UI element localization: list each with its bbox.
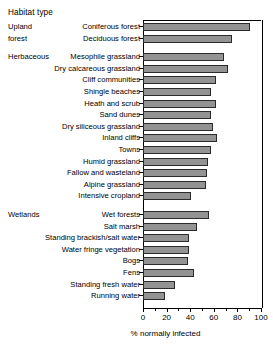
x-axis-tick-label: 40 [186, 313, 195, 322]
bar [143, 65, 228, 73]
bar [143, 246, 189, 254]
bar-row: Salt marsh [0, 223, 273, 232]
bar-category-label: Coniferous forest [82, 22, 140, 31]
x-axis-tick [237, 308, 238, 312]
x-axis-tick-label: 20 [162, 313, 171, 322]
bar-category-label: Alpine grassland [84, 180, 140, 189]
x-axis-tick [202, 308, 203, 311]
x-axis-tick [214, 308, 215, 312]
bar-row: Fens [0, 269, 273, 278]
bar-category-label: Mesophile grassland [70, 52, 140, 61]
bar-row: Bogs [0, 257, 273, 266]
bar-category-label: Towns [118, 145, 140, 154]
bar [143, 146, 211, 154]
bar-category-label: Dry calcareous grassland [54, 64, 140, 73]
bar-row: Humid grassland [0, 158, 273, 167]
bar [143, 234, 189, 242]
bar-category-label: Dry siliceous grassland [62, 122, 140, 131]
bar-row: Coniferous forest [0, 23, 273, 32]
bar-category-label: Water fringe vegetation [62, 245, 140, 254]
bar-row: Dry calcareous grassland [0, 65, 273, 74]
bar-category-label: Shingle beaches [84, 87, 140, 96]
group-label: Herbaceous [8, 52, 49, 61]
bar [143, 181, 206, 189]
x-axis-tick [178, 308, 179, 311]
bar-category-label: Inland cliffs [102, 133, 140, 142]
bar-row: Standing fresh water [0, 281, 273, 290]
bar [143, 211, 209, 219]
bar-category-label: Humid grassland [83, 157, 140, 166]
x-axis-title: % normally infected [0, 329, 273, 338]
bar-row: Heath and scrub [0, 100, 273, 109]
bar-row: Towns [0, 146, 273, 155]
habitat-infection-bar-chart: Habitat type Coniferous forestDeciduous … [0, 0, 273, 345]
bar [143, 169, 207, 177]
bar [143, 134, 217, 142]
bar-row: Deciduous forest [0, 35, 273, 44]
bar-category-label: Salt marsh [104, 222, 140, 231]
bar-category-label: Fens [123, 268, 140, 277]
x-axis-tick [155, 308, 156, 311]
bar-category-label: Wet forests [102, 210, 140, 219]
bar-category-label: Intensive cropland [78, 191, 140, 200]
bar-category-label: Sand dunes [99, 110, 140, 119]
bar-row: Standing brackish/salt water [0, 234, 273, 243]
group-label: Wetlands [8, 210, 40, 219]
x-axis-tick-label: 80 [233, 313, 242, 322]
x-axis-title-text: % normally infected [131, 329, 201, 338]
bar [143, 88, 211, 96]
bar-row: Inland cliffs [0, 134, 273, 143]
bar-row: Cliff communities [0, 76, 273, 85]
bar-category-label: Bogs [123, 256, 140, 265]
bar-row: Sand dunes [0, 111, 273, 120]
bar-row: Water fringe vegetation [0, 246, 273, 255]
bar-category-label: Standing brackish/salt water [45, 233, 140, 242]
x-axis-tick [226, 308, 227, 311]
bar [143, 281, 175, 289]
bar [143, 292, 165, 300]
x-axis-tick-label: 60 [209, 313, 218, 322]
bar-row: Alpine grassland [0, 181, 273, 190]
bar-row: Shingle beaches [0, 88, 273, 97]
bar [143, 269, 194, 277]
bar-category-label: Fallow and wasteland [67, 168, 140, 177]
bar-row: Intensive cropland [0, 192, 273, 201]
bar-row: Fallow and wasteland [0, 169, 273, 178]
bar-row: Running water [0, 292, 273, 301]
x-axis-tick [261, 308, 262, 312]
x-axis-tick-label: 0 [141, 313, 145, 322]
bar-row: Wet forests [0, 211, 273, 220]
group-label: forest [8, 34, 27, 43]
bar-category-label: Cliff communities [82, 75, 140, 84]
bar [143, 23, 250, 31]
bar [143, 192, 191, 200]
bar [143, 111, 211, 119]
bar-category-label: Standing fresh water [70, 280, 140, 289]
bar-category-label: Heath and scrub [84, 99, 140, 108]
x-axis-tick [190, 308, 191, 312]
bar [143, 123, 213, 131]
bar [143, 257, 188, 265]
x-axis-tick [167, 308, 168, 312]
bar-row: Dry siliceous grassland [0, 123, 273, 132]
bar [143, 158, 208, 166]
bar [143, 223, 197, 231]
x-axis-tick [143, 308, 144, 312]
y-axis-title: Habitat type [8, 8, 53, 17]
bar-category-label: Running water [91, 291, 140, 300]
bar [143, 35, 232, 43]
bar-rows: Coniferous forestDeciduous forestMesophi… [0, 20, 273, 308]
bar [143, 100, 216, 108]
x-axis-tick [249, 308, 250, 311]
x-axis-ticks: 020406080100 [0, 308, 273, 330]
bar-category-label: Deciduous forest [83, 34, 140, 43]
bar [143, 53, 224, 61]
bar [143, 76, 216, 84]
group-label: Upland [8, 22, 32, 31]
x-axis-tick-label: 100 [254, 313, 267, 322]
